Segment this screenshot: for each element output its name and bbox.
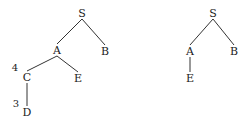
left-tree-edge-S-B: [82, 19, 105, 45]
left-tree-node-B: B: [101, 46, 109, 57]
left-tree-annotation: 3: [13, 99, 19, 109]
left-tree-edge-A-E: [57, 56, 78, 72]
right-tree-node-S: S: [209, 8, 217, 19]
right-tree-node-A: A: [186, 46, 194, 57]
left-tree-node-C: C: [23, 72, 31, 83]
right-tree-node-E: E: [186, 73, 194, 84]
left-tree-node-D: D: [23, 107, 32, 118]
left-tree-edge-S-A: [57, 19, 82, 44]
right-tree-node-B: B: [230, 46, 238, 57]
right-tree-edge-S-B: [213, 19, 234, 45]
left-tree-node-E: E: [74, 73, 82, 84]
right-tree-edge-S-A: [190, 19, 213, 45]
left-tree-node-A: A: [53, 45, 61, 56]
left-tree-node-S: S: [78, 8, 86, 19]
left-tree-edge-A-C: [27, 56, 57, 71]
left-tree-annotation: 4: [12, 63, 18, 73]
